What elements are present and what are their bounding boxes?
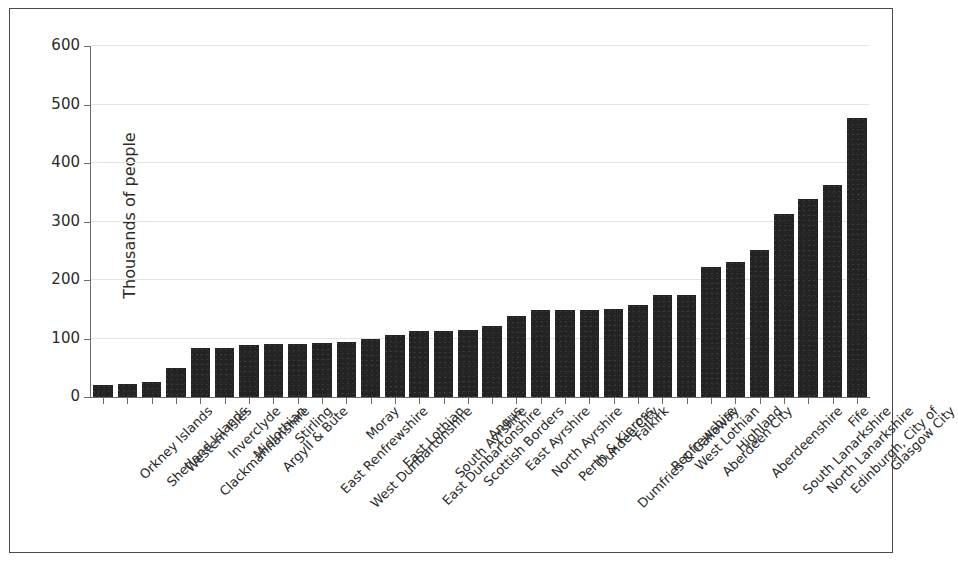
x-tick-mark (638, 398, 639, 404)
x-tick-mark (419, 398, 420, 404)
x-tick-mark (614, 398, 615, 404)
x-tick-mark (687, 398, 688, 404)
y-tick-mark-200 (84, 280, 91, 281)
y-tick-mark-0 (84, 397, 91, 398)
bar (142, 382, 161, 397)
y-tick-label-500: 500 (51, 97, 80, 112)
x-tick-mark (249, 398, 250, 404)
gridline-600 (91, 45, 869, 46)
bar (361, 339, 380, 397)
x-tick-mark (103, 398, 104, 404)
gridline-300 (91, 221, 869, 222)
gridline-400 (91, 162, 869, 163)
x-tick-mark (589, 398, 590, 404)
bar (726, 262, 745, 397)
x-tick-mark (444, 398, 445, 404)
bar (798, 199, 817, 397)
x-tick-mark (152, 398, 153, 404)
x-tick-mark (541, 398, 542, 404)
bar (215, 348, 234, 397)
y-tick-mark-500 (84, 105, 91, 106)
y-tick-mark-100 (84, 339, 91, 340)
x-tick-mark (516, 398, 517, 404)
y-tick-label-100: 100 (51, 331, 80, 346)
bar (264, 344, 283, 397)
x-tick-mark (662, 398, 663, 404)
bar (507, 316, 526, 397)
gridline-500 (91, 104, 869, 105)
x-tick-mark (298, 398, 299, 404)
bar (555, 310, 574, 397)
bar (288, 344, 307, 397)
x-tick-mark (225, 398, 226, 404)
bar (385, 335, 404, 397)
x-tick-mark (371, 398, 372, 404)
y-tick-label-600: 600 (51, 38, 80, 53)
x-tick-mark (468, 398, 469, 404)
x-axis-tick-labels: Orkney IslandsShetland IslandsWestern Is… (0, 404, 904, 554)
bar (750, 250, 769, 397)
x-tick-mark (395, 398, 396, 404)
x-tick-mark (492, 398, 493, 404)
bar (191, 348, 210, 397)
bar (823, 185, 842, 397)
y-tick-label-0: 0 (70, 389, 80, 404)
bar (458, 330, 477, 397)
y-tick-label-300: 300 (51, 214, 80, 229)
x-tick-mark (346, 398, 347, 404)
x-tick-mark (711, 398, 712, 404)
bar (93, 385, 112, 397)
bar (166, 368, 185, 397)
x-tick-mark (784, 398, 785, 404)
bar (409, 331, 428, 397)
bar (653, 295, 672, 397)
x-axis-line (90, 397, 870, 398)
bar (239, 345, 258, 397)
y-tick-label-200: 200 (51, 272, 80, 287)
bar (482, 326, 501, 397)
x-tick-mark (565, 398, 566, 404)
y-tick-mark-600 (84, 46, 91, 47)
x-tick-mark (127, 398, 128, 404)
bar (677, 295, 696, 397)
x-tick-mark (808, 398, 809, 404)
x-tick-mark (833, 398, 834, 404)
x-tick-mark (322, 398, 323, 404)
bar (847, 118, 866, 397)
x-tick-mark (760, 398, 761, 404)
x-tick-mark (857, 398, 858, 404)
bar (628, 305, 647, 397)
x-tick-mark (200, 398, 201, 404)
y-axis-title: Thousands of people (120, 116, 139, 316)
bar (774, 214, 793, 397)
y-tick-mark-300 (84, 222, 91, 223)
y-tick-label-400: 400 (51, 155, 80, 170)
bar (312, 343, 331, 397)
bar (580, 310, 599, 397)
bar (604, 309, 623, 397)
bar (434, 331, 453, 397)
x-tick-mark (273, 398, 274, 404)
bar (531, 310, 550, 397)
bar (337, 342, 356, 397)
x-tick-mark (176, 398, 177, 404)
bar (701, 267, 720, 397)
bar (118, 384, 137, 397)
plot-area: Thousands of people (91, 46, 869, 397)
y-tick-mark-400 (84, 163, 91, 164)
x-tick-mark (735, 398, 736, 404)
